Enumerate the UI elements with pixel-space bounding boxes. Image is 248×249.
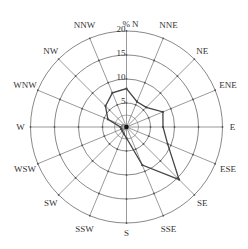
- ring-tick-dot: [193, 194, 195, 196]
- ring-tick-dot: [75, 75, 77, 77]
- data-point-ese: [167, 143, 169, 145]
- ring-tick-dot: [192, 154, 194, 156]
- ring-tick-dot: [222, 126, 224, 128]
- ring-tick-dot: [126, 174, 128, 176]
- ring-tick-dot: [126, 54, 128, 56]
- ring-tick-dot: [59, 99, 61, 101]
- data-point-ne: [145, 106, 147, 108]
- direction-label-wsw: WSW: [14, 164, 37, 174]
- ring-tick-dot: [92, 160, 94, 162]
- data-point-e: [162, 126, 164, 128]
- data-point-n: [125, 88, 127, 90]
- direction-label-ene: ENE: [219, 80, 237, 90]
- direction-label-se: SE: [197, 198, 208, 208]
- ring-tick-dot: [116, 104, 118, 106]
- ring-tick-dot: [103, 117, 105, 119]
- ring-tick-dot: [214, 163, 216, 165]
- ring-tick-dot: [126, 78, 128, 80]
- ring-tick-dot: [174, 126, 176, 128]
- ring-tick-dot: [78, 126, 80, 128]
- ring-tick-dot: [81, 108, 83, 110]
- ring-tick-dot: [177, 75, 179, 77]
- ring-tick-dot: [126, 30, 128, 32]
- wind-rose-chart: % NNNENEENEEESESESSESSSWSWWSWWWNWNWNNW 5…: [0, 0, 248, 249]
- ring-tick-dot: [126, 102, 128, 104]
- direction-label-ese: ESE: [220, 164, 237, 174]
- ring-tick-dot: [148, 117, 150, 119]
- ring-tick-dot: [109, 109, 111, 111]
- data-point-sse: [141, 164, 143, 166]
- ring-tick-dot: [116, 148, 118, 150]
- ring-tick-dot: [98, 193, 100, 195]
- ring-tick-dot: [107, 82, 109, 84]
- direction-label-ssw: SSW: [75, 224, 94, 234]
- ring-tick-dot: [160, 160, 162, 162]
- data-point-ene: [162, 111, 164, 113]
- ring-tick-dot: [160, 92, 162, 94]
- direction-label-s: S: [124, 228, 129, 238]
- ring-tick-dot: [126, 198, 128, 200]
- ring-tick-dot: [170, 108, 172, 110]
- ring-tick-dot: [170, 144, 172, 146]
- ring-tick-dot: [143, 109, 145, 111]
- ring-tick-dot: [192, 99, 194, 101]
- ring-tick-dot: [214, 89, 216, 91]
- radial-tick-20: 20: [117, 24, 127, 34]
- data-point-nnw: [111, 92, 113, 94]
- data-point-ssw: [123, 133, 125, 135]
- ring-tick-dot: [30, 126, 32, 128]
- radial-tick-labels: 51015200: [117, 24, 127, 132]
- direction-label-nne: NNE: [159, 20, 178, 30]
- ring-tick-dot: [193, 58, 195, 60]
- ring-tick-dot: [126, 222, 128, 224]
- ring-tick-dot: [89, 37, 91, 39]
- ring-tick-dot: [103, 135, 105, 137]
- ring-tick-dot: [54, 126, 56, 128]
- ring-tick-dot: [153, 60, 155, 62]
- ring-tick-dot: [162, 37, 164, 39]
- ring-tick-dot: [148, 135, 150, 137]
- ring-tick-dot: [37, 89, 39, 91]
- ring-tick-dot: [37, 163, 39, 165]
- ring-tick-dot: [143, 143, 145, 145]
- ring-tick-dot: [135, 148, 137, 150]
- data-point-s: [125, 137, 127, 139]
- ring-tick-dot: [153, 193, 155, 195]
- direction-label-sse: SSE: [161, 224, 177, 234]
- data-point-se: [178, 179, 180, 181]
- direction-label-ne: NE: [196, 46, 208, 56]
- ring-tick-dot: [58, 58, 60, 60]
- ring-tick-dot: [89, 215, 91, 217]
- direction-label-w: W: [16, 122, 25, 132]
- ring-tick-dot: [102, 126, 104, 128]
- ring-tick-dot: [58, 194, 60, 196]
- direction-label-e: E: [230, 122, 236, 132]
- ring-tick-dot: [81, 144, 83, 146]
- data-point-nw: [104, 105, 106, 107]
- radial-tick-5: 5: [121, 96, 126, 106]
- direction-label-wnw: WNW: [13, 80, 37, 90]
- radial-tick-0: 0: [121, 122, 126, 132]
- ring-tick-dot: [135, 104, 137, 106]
- direction-label-nw: NW: [43, 46, 58, 56]
- ring-tick-dot: [107, 170, 109, 172]
- ring-tick-dot: [98, 60, 100, 62]
- ring-tick-dot: [109, 143, 111, 145]
- direction-label-sw: SW: [44, 198, 58, 208]
- data-point-wnw: [107, 118, 109, 120]
- radial-tick-15: 15: [117, 48, 127, 58]
- ring-tick-dot: [75, 177, 77, 179]
- radial-tick-10: 10: [117, 72, 127, 82]
- ring-tick-dot: [198, 126, 200, 128]
- ring-tick-dot: [92, 92, 94, 94]
- direction-label-nnw: NNW: [74, 20, 96, 30]
- ring-tick-dot: [59, 154, 61, 156]
- data-point-nne: [136, 101, 138, 103]
- ring-tick-dot: [144, 170, 146, 172]
- ring-tick-dot: [144, 82, 146, 84]
- ring-tick-dot: [150, 126, 152, 128]
- wind-rose-svg: % NNNENEENEEESESESSESSSWSWWSWWWNWNWNNW 5…: [0, 0, 248, 249]
- ring-tick-dot: [162, 215, 164, 217]
- ring-tick-dot: [126, 150, 128, 152]
